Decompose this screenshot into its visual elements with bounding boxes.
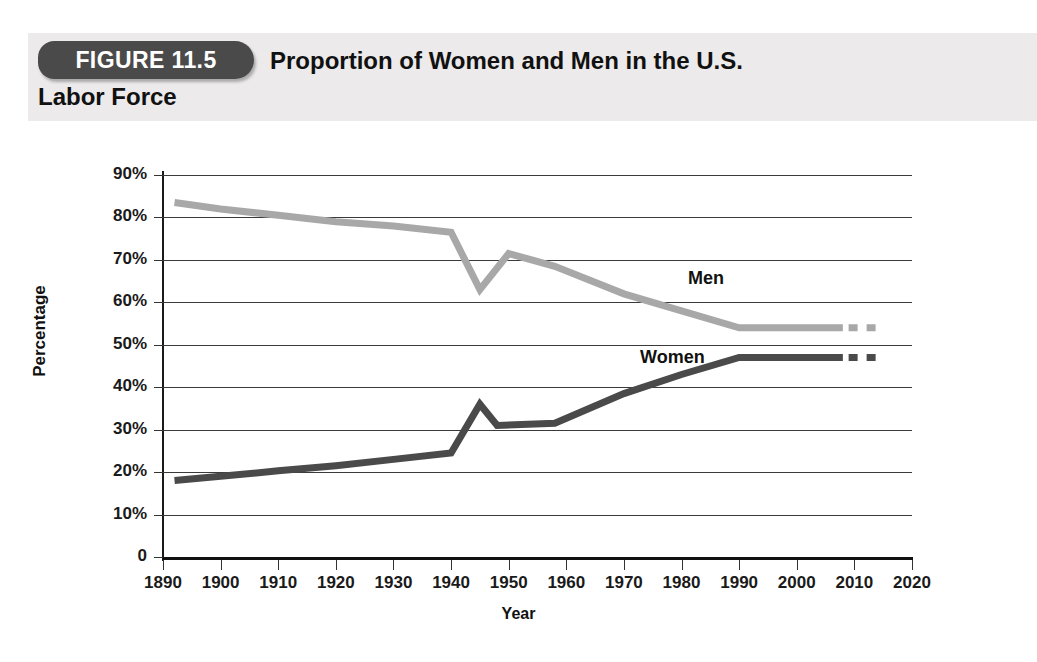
y-tick-label: 50% [87,334,147,354]
series-line-men [175,203,843,328]
x-tick-label: 1940 [421,573,481,593]
x-tick-label: 1950 [479,573,539,593]
y-tick [154,515,163,516]
y-tick-label: 0 [87,546,147,566]
x-axis-line [162,557,913,560]
x-tick [509,560,510,570]
x-tick-label: 1920 [306,573,366,593]
series-line-women [175,358,843,481]
figure-number-label: FIGURE 11.5 [38,41,254,79]
x-tick [739,560,740,570]
figure-title-line-2: Labor Force [38,80,538,114]
y-tick-label: 90% [87,164,147,184]
y-tick-label: 10% [87,504,147,524]
y-tick [154,217,163,218]
figure-title-line-1: Proportion of Women and Men in the U.S. [270,44,930,78]
series-label-men: Men [688,268,724,289]
x-tick [797,560,798,570]
x-tick [393,560,394,570]
x-tick-label: 1930 [363,573,423,593]
y-tick [154,302,163,303]
y-tick-label: 20% [87,461,147,481]
y-tick [154,260,163,261]
x-tick [854,560,855,570]
x-tick [163,560,164,570]
y-tick-label: 60% [87,291,147,311]
x-tick-label: 1990 [709,573,769,593]
x-tick-label: 2010 [824,573,884,593]
y-tick [154,175,163,176]
y-tick [154,387,163,388]
x-tick-label: 2000 [767,573,827,593]
x-tick [221,560,222,570]
x-tick-label: 2020 [882,573,942,593]
x-tick [624,560,625,570]
x-tick [451,560,452,570]
x-tick-label: 1960 [536,573,596,593]
series-lines [163,175,912,557]
x-tick [682,560,683,570]
series-label-women: Women [640,347,705,368]
y-tick [154,557,163,558]
chart-container: Percentage 010%20%30%40%50%60%70%80%90% … [0,125,1037,662]
x-tick [278,560,279,570]
x-tick [912,560,913,570]
y-tick-label: 70% [87,249,147,269]
y-tick [154,345,163,346]
x-tick-label: 1900 [191,573,251,593]
y-tick-label: 30% [87,419,147,439]
x-tick-label: 1890 [133,573,193,593]
x-tick-label: 1970 [594,573,654,593]
x-axis-title: Year [0,605,1037,623]
y-tick [154,430,163,431]
x-tick [336,560,337,570]
plot-area [163,175,912,557]
y-tick-label: 40% [87,376,147,396]
y-axis-title: Percentage [30,285,50,377]
figure-number-badge: FIGURE 11.5 [38,41,254,79]
x-tick-label: 1910 [248,573,308,593]
x-tick-label: 1980 [652,573,712,593]
y-tick [154,472,163,473]
y-tick-label: 80% [87,206,147,226]
x-tick [566,560,567,570]
